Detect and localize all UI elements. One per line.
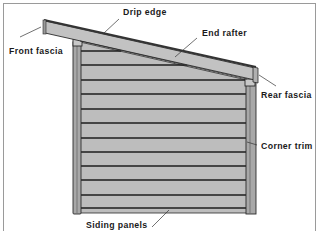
label-siding-panels: Siding panels	[86, 219, 148, 230]
label-front-fascia: Front fascia	[9, 45, 63, 56]
left-corner-trim	[73, 39, 82, 214]
label-rear-fascia: Rear fascia	[261, 89, 312, 100]
front-fascia	[43, 20, 46, 34]
right-corner-trim	[245, 79, 256, 214]
label-corner-trim: Corner trim	[261, 140, 313, 151]
shed-diagram	[0, 0, 321, 231]
label-drip-edge: Drip edge	[123, 6, 167, 17]
rear-fascia	[253, 67, 258, 83]
label-end-rafter: End rafter	[202, 27, 247, 38]
